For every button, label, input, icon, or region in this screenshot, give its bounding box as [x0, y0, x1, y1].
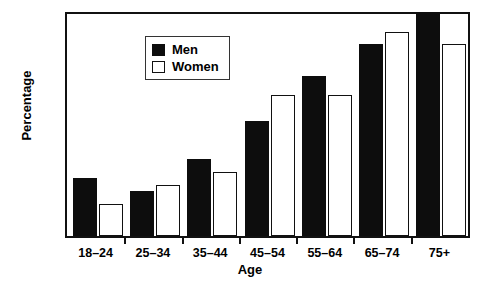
hollow-square-icon: [152, 61, 165, 73]
legend-item-men: Men: [152, 41, 219, 58]
plot-area: Men Women: [65, 12, 470, 238]
bar-men-65-74: [359, 44, 383, 236]
bar-women-18-24: [99, 204, 123, 236]
bar-women-45-54: [271, 95, 295, 236]
filled-square-icon: [152, 44, 165, 56]
legend-item-women: Women: [152, 58, 219, 75]
bar-men-25-34: [130, 191, 154, 236]
legend-label-women: Women: [172, 59, 219, 74]
bar-men-45-54: [245, 121, 269, 236]
chart-legend: Men Women: [145, 36, 230, 80]
bar-women-75+: [442, 44, 466, 236]
legend-label-men: Men: [172, 42, 198, 57]
bar-women-55-64: [328, 95, 352, 236]
bar-men-35-44: [187, 159, 211, 236]
bar-men-55-64: [302, 76, 326, 236]
x-tick-mark: [239, 238, 241, 244]
bar-chart-figure: Percentage 05101520253035 Men Women 18–2…: [0, 0, 500, 284]
bar-men-18-24: [73, 178, 97, 236]
bar-women-35-44: [213, 172, 237, 236]
x-tick-label: 75+: [404, 246, 474, 260]
y-axis-title: Percentage: [19, 36, 34, 176]
x-axis-title: Age: [0, 262, 500, 277]
x-tick-mark: [353, 238, 355, 244]
x-tick-mark: [296, 238, 298, 244]
x-tick-mark: [411, 238, 413, 244]
x-tick-mark: [124, 238, 126, 244]
x-tick-mark: [182, 238, 184, 244]
bar-women-65-74: [385, 32, 409, 236]
bar-women-25-34: [156, 185, 180, 236]
bar-men-75+: [416, 12, 440, 236]
